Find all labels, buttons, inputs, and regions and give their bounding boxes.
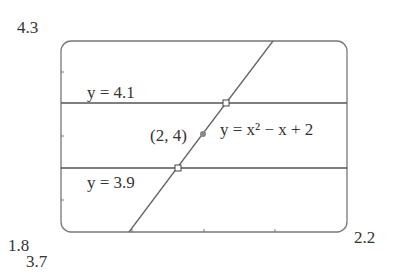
upper-line-label: y = 4.1: [87, 83, 135, 102]
y-max-label: 4.3: [17, 18, 38, 37]
intersection-marker-lower: [175, 165, 181, 171]
y-min-label: 3.7: [26, 252, 48, 271]
x-max-label: 2.2: [354, 228, 375, 247]
lower-line-label: y = 3.9: [87, 173, 135, 192]
point-2-4: [200, 131, 206, 137]
curve-label: y = x² − x + 2: [220, 120, 313, 139]
x-min-label: 1.8: [8, 236, 29, 255]
intersection-marker-upper: [223, 100, 229, 106]
chart-canvas: 4.3 3.7 1.8 2.2 y = 4.1 y = 3.9 (2, 4) y…: [0, 0, 407, 274]
point-label: (2, 4): [150, 126, 187, 145]
